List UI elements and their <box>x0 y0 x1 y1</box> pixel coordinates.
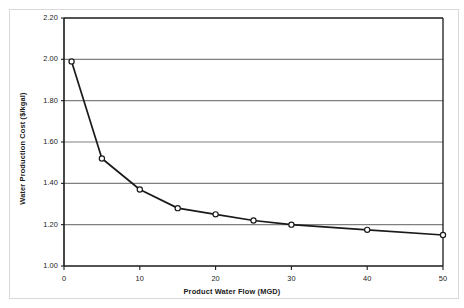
chart-figure: Water Production Cost ($/kgal) Product W… <box>0 0 464 308</box>
y-axis-tick-label: 2.00 <box>18 54 58 63</box>
data-point-marker <box>365 227 370 232</box>
data-point-marker <box>69 59 74 64</box>
data-line-series-0 <box>72 61 443 235</box>
data-point-marker <box>175 206 180 211</box>
x-axis-tick-label: 10 <box>125 274 155 283</box>
x-axis-tick-label: 30 <box>276 274 306 283</box>
data-point-marker <box>213 212 218 217</box>
y-axis-tick-label: 1.40 <box>18 178 58 187</box>
y-axis-tick-label: 2.20 <box>18 13 58 22</box>
data-point-marker <box>289 222 294 227</box>
data-point-marker <box>137 187 142 192</box>
y-axis-tick-label: 1.20 <box>18 220 58 229</box>
data-point-marker <box>251 218 256 223</box>
plot-canvas <box>0 0 464 308</box>
x-axis-tick-label: 50 <box>428 274 458 283</box>
data-point-marker <box>99 156 104 161</box>
data-point-marker <box>440 232 445 237</box>
x-axis-title: Product Water Flow (MGD) <box>0 287 464 296</box>
x-axis-tick-label: 0 <box>49 274 79 283</box>
y-axis-title: Water Production Cost ($/kgal) <box>18 49 27 249</box>
y-axis-tick-label: 1.80 <box>18 96 58 105</box>
x-axis-tick-label: 20 <box>201 274 231 283</box>
y-axis-tick-label: 1.60 <box>18 137 58 146</box>
x-axis-tick-label: 40 <box>352 274 382 283</box>
y-axis-tick-label: 1.00 <box>18 261 58 270</box>
